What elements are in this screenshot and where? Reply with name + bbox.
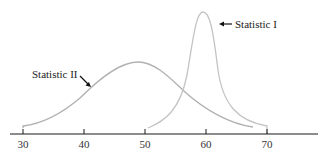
tick-label-60: 60 bbox=[201, 138, 213, 150]
arrow-icon-statistic-i bbox=[219, 22, 232, 27]
label-statistic-ii: Statistic II bbox=[32, 68, 78, 80]
tick-label-30: 30 bbox=[18, 138, 30, 150]
tick-label-40: 40 bbox=[79, 138, 91, 150]
arrow-icon-statistic-ii bbox=[80, 76, 91, 87]
tick-label-70: 70 bbox=[262, 138, 274, 150]
chart-canvas: 30 40 50 60 70 Statistic I Statistic II bbox=[0, 0, 330, 156]
label-statistic-i: Statistic I bbox=[235, 18, 277, 30]
tick-label-50: 50 bbox=[140, 138, 152, 150]
curve-statistic-i bbox=[148, 12, 267, 134]
x-ticks bbox=[23, 129, 267, 134]
